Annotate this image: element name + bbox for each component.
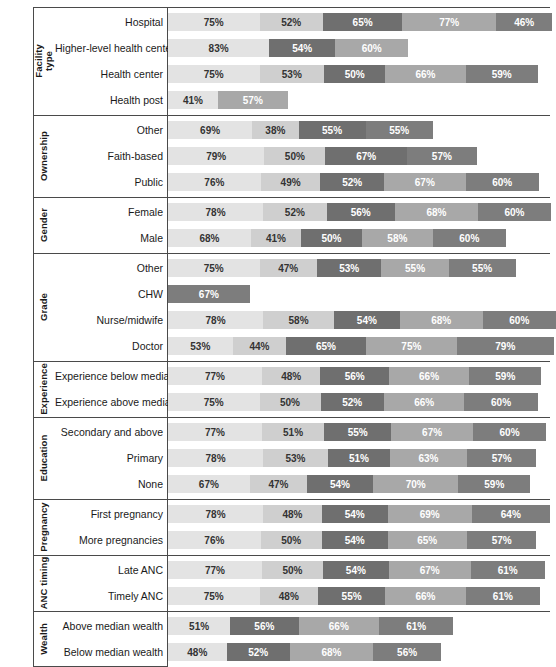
bar-segment: 47% — [260, 259, 317, 277]
bar: 83%54%60% — [168, 39, 408, 57]
bar-segment: 78% — [168, 505, 263, 523]
group-divider — [33, 417, 550, 418]
chart-row: Nurse/midwife78%58%54%68%60% — [0, 307, 550, 333]
bar-segment: 75% — [168, 259, 260, 277]
row-label: Other — [55, 117, 163, 143]
chart-row: Health center75%53%50%66%59% — [0, 61, 550, 87]
bar-segment: 61% — [379, 617, 453, 635]
bar-segment: 76% — [168, 531, 261, 549]
chart-row: Late ANC77%50%54%67%61% — [0, 557, 550, 583]
row-label: Primary — [55, 445, 163, 471]
bar-segment: 67% — [325, 147, 407, 165]
bar-segment: 48% — [263, 505, 322, 523]
bar-segment: 55% — [366, 121, 433, 139]
bar-segment: 54% — [307, 475, 373, 493]
row-label: Above median wealth — [55, 613, 163, 639]
chart-row: Secondary and above77%51%55%67%60% — [0, 419, 550, 445]
bar: 77%48%56%66%59% — [168, 367, 541, 385]
bar-segment: 58% — [362, 229, 433, 247]
group-gender: GenderFemale78%52%56%68%60%Male68%41%50%… — [0, 197, 550, 253]
bar-segment: 79% — [168, 147, 264, 165]
bar-segment: 68% — [290, 643, 373, 661]
bar-segment: 57% — [407, 147, 477, 165]
group-divider — [33, 361, 550, 362]
bar-segment: 68% — [395, 203, 478, 221]
chart-row: Above median wealth51%56%66%61% — [0, 613, 550, 639]
bar: 48%52%68%56% — [168, 643, 441, 661]
chart-row: Public76%49%52%67%60% — [0, 169, 550, 195]
group-pregnancy: PregnancyFirst pregnancy78%48%54%69%64%M… — [0, 499, 550, 555]
bar-segment: 76% — [168, 173, 261, 191]
chart-row: None67%47%54%70%59% — [0, 471, 550, 497]
row-label: Late ANC — [55, 557, 163, 583]
bar-segment: 52% — [320, 173, 383, 191]
group-divider — [33, 555, 550, 556]
chart-row: Higher-level health center83%54%60% — [0, 35, 550, 61]
row-label: Female — [55, 199, 163, 225]
row-label: Health center — [55, 61, 163, 87]
bar-segment: 46% — [496, 13, 552, 31]
bar-segment: 54% — [269, 39, 335, 57]
bar-segment: 53% — [168, 337, 233, 355]
group-facility-type: Facility typeHospital75%52%65%77%46%High… — [0, 7, 550, 115]
bar-segment: 54% — [322, 505, 388, 523]
row-label: Higher-level health center — [55, 35, 163, 61]
chart-row: First pregnancy78%48%54%69%64% — [0, 501, 550, 527]
bar: 77%50%54%67%61% — [168, 561, 545, 579]
bar-segment: 77% — [168, 423, 262, 441]
bar-segment: 69% — [168, 121, 252, 139]
bar-segment: 58% — [263, 311, 334, 329]
row-label: Experience below median — [55, 363, 163, 389]
bar: 75%52%65%77%46% — [168, 13, 552, 31]
bar-segment: 48% — [262, 367, 321, 385]
bar-segment: 75% — [168, 13, 260, 31]
bar-segment: 55% — [324, 423, 391, 441]
bar-segment: 59% — [469, 367, 541, 385]
row-label: Other — [55, 255, 163, 281]
chart-row: Timely ANC75%48%55%66%61% — [0, 583, 550, 609]
bar-segment: 78% — [168, 203, 263, 221]
bar-segment: 50% — [301, 229, 362, 247]
row-label: Below median wealth — [55, 639, 163, 665]
bar-segment: 65% — [323, 13, 402, 31]
row-label: Faith-based — [55, 143, 163, 169]
bar-segment: 59% — [466, 65, 538, 83]
chart-row: Primary78%53%51%63%57% — [0, 445, 550, 471]
bar-segment: 56% — [230, 617, 298, 635]
bar-segment: 75% — [168, 393, 260, 411]
bar: 53%44%65%75%79% — [168, 337, 554, 355]
bar-segment: 54% — [322, 531, 388, 549]
bar: 68%41%50%58%60% — [168, 229, 506, 247]
bar-segment: 55% — [449, 259, 516, 277]
group-divider — [33, 611, 550, 612]
chart-row: Below median wealth48%52%68%56% — [0, 639, 550, 665]
bar-segment: 56% — [327, 203, 395, 221]
bar-segment: 41% — [251, 229, 301, 247]
row-label: None — [55, 471, 163, 497]
bar-segment: 64% — [472, 505, 550, 523]
bar: 75%50%52%66%60% — [168, 393, 538, 411]
group-divider — [33, 499, 550, 500]
bar-segment: 50% — [260, 393, 321, 411]
chart-row: Health post41%57% — [0, 87, 550, 113]
bar-segment: 83% — [168, 39, 269, 57]
bar-segment: 41% — [168, 91, 218, 109]
bar: 78%52%56%68%60% — [168, 203, 551, 221]
bar-segment: 77% — [402, 13, 496, 31]
bar: 67%47%54%70%59% — [168, 475, 530, 493]
bar-segment: 66% — [384, 393, 465, 411]
bar-segment: 69% — [388, 505, 472, 523]
row-label: Nurse/midwife — [55, 307, 163, 333]
bar-segment: 50% — [261, 531, 322, 549]
bar: 76%49%52%67%60% — [168, 173, 539, 191]
bar-segment: 67% — [168, 285, 250, 303]
bar-segment: 78% — [168, 311, 263, 329]
bar: 76%50%54%65%57% — [168, 531, 536, 549]
bar-segment: 51% — [168, 617, 230, 635]
bar: 78%48%54%69%64% — [168, 505, 550, 523]
row-label: Hospital — [55, 9, 163, 35]
bar-segment: 50% — [324, 65, 385, 83]
bar-segment: 61% — [466, 587, 540, 605]
chart-row: Doctor53%44%65%75%79% — [0, 333, 550, 359]
bar-segment: 60% — [464, 393, 537, 411]
